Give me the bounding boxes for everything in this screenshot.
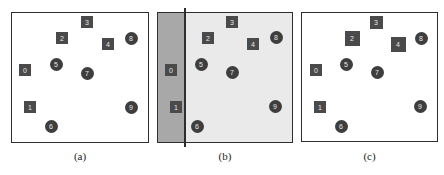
- panel-caption-c: (c): [363, 150, 375, 162]
- circle-node-6: 6: [191, 120, 204, 133]
- circle-node-9: 9: [414, 100, 427, 113]
- square-node-0: 0: [165, 64, 177, 76]
- circle-node-8: 8: [125, 32, 138, 45]
- square-node-2: 2: [345, 31, 360, 46]
- circle-node-6: 6: [335, 120, 348, 133]
- square-node-3: 3: [81, 16, 93, 28]
- circle-node-5: 5: [50, 58, 63, 71]
- circle-node-7: 7: [371, 66, 384, 79]
- circle-node-9: 9: [269, 100, 282, 113]
- square-node-2: 2: [202, 32, 214, 44]
- panel-caption-a: (a): [74, 150, 86, 162]
- circle-node-9: 9: [125, 101, 138, 114]
- panel-c: [301, 12, 438, 142]
- square-node-3: 3: [226, 16, 238, 28]
- circle-node-8: 8: [270, 31, 283, 44]
- circle-node-7: 7: [226, 66, 239, 79]
- circle-node-8: 8: [415, 32, 428, 45]
- split-line: [184, 8, 186, 147]
- circle-node-7: 7: [81, 67, 94, 80]
- square-node-2: 2: [56, 32, 68, 44]
- square-node-0: 0: [19, 64, 31, 76]
- circle-node-5: 5: [340, 58, 353, 71]
- circle-node-6: 6: [45, 120, 58, 133]
- square-node-4: 4: [102, 38, 114, 50]
- shaded-region: [158, 13, 185, 142]
- square-node-1: 1: [24, 101, 36, 113]
- square-node-4: 4: [391, 37, 406, 52]
- circle-node-5: 5: [195, 58, 208, 71]
- square-node-1: 1: [314, 101, 326, 113]
- square-node-3: 3: [370, 16, 383, 29]
- square-node-0: 0: [310, 64, 322, 76]
- panel-caption-b: (b): [219, 150, 232, 162]
- square-node-1: 1: [170, 101, 182, 113]
- square-node-4: 4: [247, 38, 259, 50]
